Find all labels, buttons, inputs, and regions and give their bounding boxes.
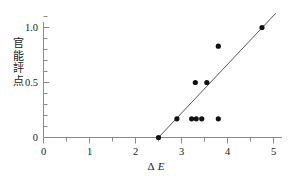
data-point	[216, 116, 221, 121]
x-tick-label-4: 4	[225, 146, 231, 157]
data-point	[204, 80, 209, 85]
y-tick-label-0: 0	[33, 132, 38, 143]
y-axis-major-ticks	[44, 28, 50, 138]
data-point	[194, 116, 199, 121]
data-point	[199, 116, 204, 121]
y-axis-tick-labels: 1.0 0.5 0	[25, 22, 38, 143]
data-point	[156, 135, 161, 140]
x-tick-label-3: 3	[179, 146, 184, 157]
chart-figure: 官 能 評 点	[0, 0, 297, 176]
x-tick-label-0: 0	[41, 146, 46, 157]
axes-group	[44, 22, 283, 138]
y-tick-label-1-0: 1.0	[25, 22, 38, 33]
x-axis-title-delta: Δ	[147, 160, 154, 172]
data-point	[216, 44, 221, 49]
data-point	[259, 25, 264, 30]
data-point	[174, 116, 179, 121]
scatter-plot: 1.0 0.5 0 0 1 2 3 4 5 Δ E	[0, 0, 297, 176]
x-tick-label-2: 2	[133, 146, 138, 157]
x-tick-label-5: 5	[271, 146, 276, 157]
data-point	[189, 116, 194, 121]
data-point	[193, 80, 198, 85]
x-axis-title-e: E	[157, 160, 165, 172]
y-tick-label-0-5: 0.5	[25, 77, 38, 88]
x-axis-tick-labels: 0 1 2 3 4 5	[41, 146, 276, 157]
x-tick-label-1: 1	[87, 146, 92, 157]
y-axis-minor-ticks	[44, 17, 48, 127]
x-axis-title: Δ E	[147, 160, 164, 172]
